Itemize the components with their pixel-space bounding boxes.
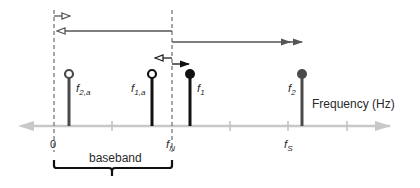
svg-text:f2,a: f2,a xyxy=(76,82,91,97)
tick-label-nyquist: fN xyxy=(166,138,175,153)
tick-label-zero: 0 xyxy=(50,138,56,150)
tick-label-sampling: fS xyxy=(284,138,293,153)
baseband-brace: baseband xyxy=(54,151,172,176)
stem-f1: f1 xyxy=(185,69,205,126)
svg-text:baseband: baseband xyxy=(89,151,142,165)
filled-circle-marker-icon xyxy=(297,69,307,79)
svg-text:f1,a: f1,a xyxy=(131,82,146,97)
frequency-axis xyxy=(18,121,390,131)
axis-title: Frequency (Hz) xyxy=(312,97,395,111)
stem-f2: f2 xyxy=(288,69,307,126)
stem-f1a: f1,a xyxy=(131,70,156,126)
open-circle-marker-icon xyxy=(65,70,73,78)
filled-circle-marker-icon xyxy=(185,69,195,79)
svg-text:f1: f1 xyxy=(197,82,205,97)
aliasing-diagram: f2,a f1,a f1 f2 Frequency (Hz) 0 fN fS b… xyxy=(0,0,420,188)
stem-f2a: f2,a xyxy=(65,70,91,126)
axis-left-arrow-icon xyxy=(18,121,34,131)
open-circle-marker-icon xyxy=(148,70,156,78)
svg-text:f2: f2 xyxy=(288,82,296,97)
folding-arrows xyxy=(54,16,302,64)
